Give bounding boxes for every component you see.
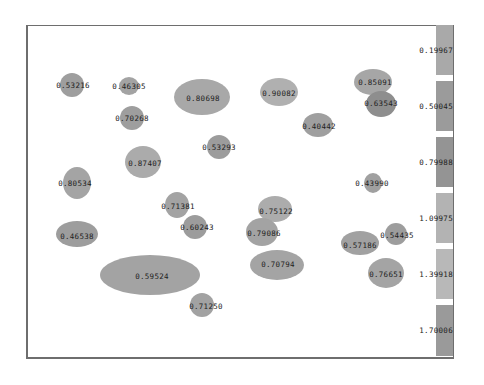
data-label: 0.46538 — [60, 232, 94, 241]
legend-label: 0.79988 — [419, 158, 453, 167]
legend-label: 0.19967 — [419, 46, 453, 55]
data-label: 0.76651 — [369, 270, 403, 279]
data-label: 0.59524 — [135, 272, 169, 281]
data-label: 0.87407 — [128, 159, 162, 168]
legend-label: 1.09975 — [419, 214, 453, 223]
data-label: 0.63543 — [364, 99, 398, 108]
data-label: 0.60243 — [180, 223, 214, 232]
data-label: 0.71381 — [161, 202, 195, 211]
data-label: 0.71250 — [189, 302, 223, 311]
data-label: 0.54435 — [380, 231, 414, 240]
data-label: 0.46305 — [112, 82, 146, 91]
data-label: 0.57186 — [343, 241, 377, 250]
data-label: 0.40442 — [302, 122, 336, 131]
data-label: 0.90082 — [262, 89, 296, 98]
legend-label: 0.50045 — [419, 102, 453, 111]
legend-label: 1.39918 — [419, 270, 453, 279]
data-label: 0.70268 — [115, 114, 149, 123]
data-label: 0.75122 — [259, 207, 293, 216]
data-label: 0.43990 — [355, 179, 389, 188]
data-label: 0.53293 — [202, 143, 236, 152]
data-label: 0.53216 — [56, 81, 90, 90]
data-label: 0.80534 — [58, 179, 92, 188]
legend-label: 1.70006 — [419, 326, 453, 335]
data-label: 0.80698 — [186, 94, 220, 103]
data-label: 0.85091 — [358, 78, 392, 87]
data-label: 0.79086 — [247, 229, 281, 238]
data-label: 0.70794 — [261, 260, 295, 269]
